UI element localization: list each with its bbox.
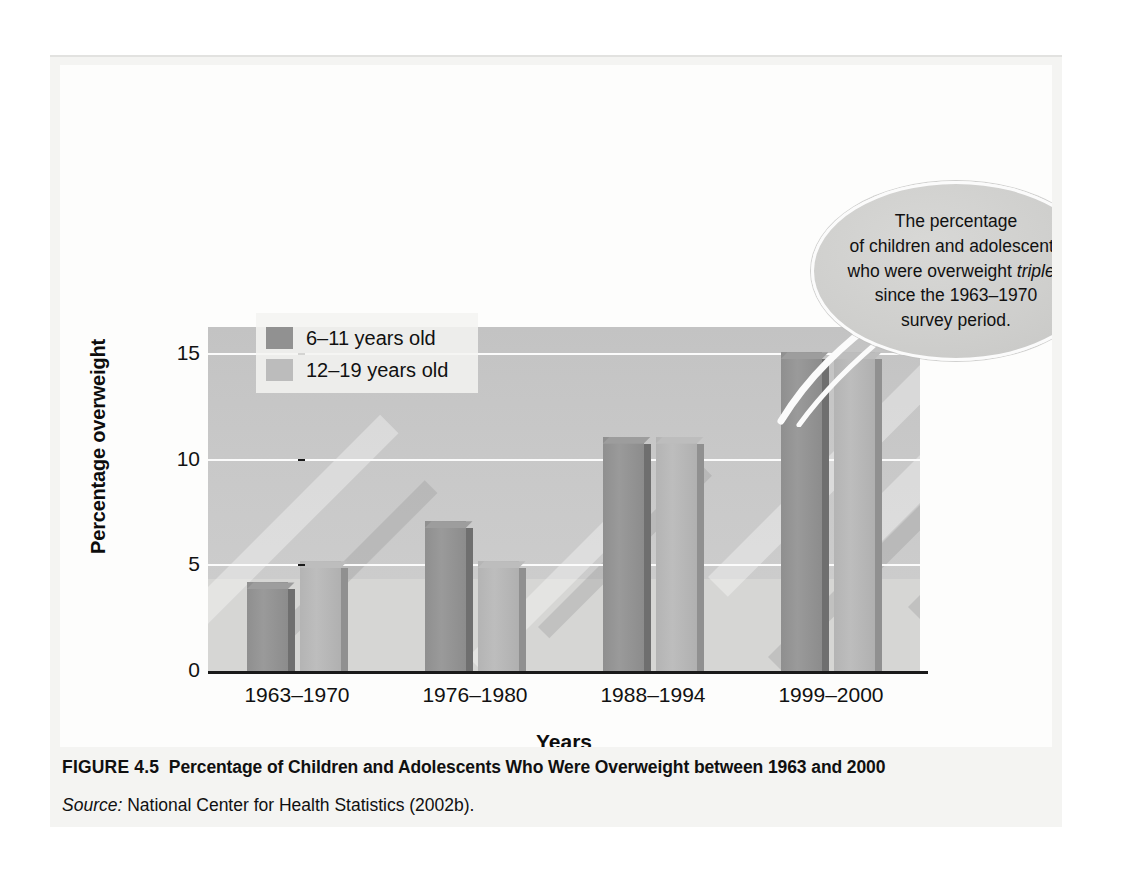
figure-source-line: Source: National Center for Health Stati… [62, 795, 1052, 816]
bar-top-face [425, 521, 473, 528]
bar-side-face [341, 568, 348, 671]
y-axis-tick-mark [298, 459, 305, 461]
callout-line-3-text: who were overweight [848, 261, 1017, 281]
legend-swatch-icon [266, 327, 293, 349]
bar [425, 521, 473, 671]
bar-side-face [875, 359, 882, 671]
bar [603, 437, 651, 671]
callout-line-5: survey period. [901, 308, 1011, 333]
y-axis-title: Percentage overweight [87, 317, 110, 577]
y-axis-tick-label: 5 [160, 552, 200, 576]
source-text: National Center for Health Statistics (2… [127, 795, 474, 815]
bar-side-face [288, 589, 295, 671]
chart-panel: 051015 1963–19701976–19801988–19941999–2… [60, 65, 1052, 747]
legend-item-1: 12–19 years old [266, 354, 468, 386]
bar-front-face [425, 521, 466, 671]
bar [656, 437, 704, 671]
bar-front-face [781, 352, 822, 671]
bar [300, 561, 348, 671]
legend-swatch-icon [266, 359, 293, 381]
bar-top-face [603, 437, 651, 444]
chart-legend: 6–11 years old 12–19 years old [256, 313, 478, 393]
y-axis-tick-label: 15 [160, 341, 200, 365]
bar-top-face [656, 437, 704, 444]
x-axis-tick-label: 1999–2000 [741, 683, 921, 707]
bar-front-face [478, 561, 519, 671]
bar-front-face [603, 437, 644, 671]
bar-front-face [300, 561, 341, 671]
callout-line-1: The percentage [895, 209, 1018, 234]
x-axis-tick-label: 1976–1980 [385, 683, 565, 707]
caption-spacer [159, 757, 169, 777]
figure-caption-text: Percentage of Children and Adolescents W… [169, 757, 886, 777]
callout-text: The percentage of children and adolescen… [811, 181, 1052, 361]
bar-side-face [644, 444, 651, 671]
callout-line-2: of children and adolescents [849, 234, 1052, 259]
legend-item-label: 6–11 years old [306, 327, 436, 350]
callout-bubble: The percentage of children and adolescen… [811, 181, 1052, 361]
legend-item-0: 6–11 years old [266, 322, 468, 354]
x-axis-tick-label: 1988–1994 [563, 683, 743, 707]
figure-number: FIGURE 4.5 [62, 757, 159, 777]
bar-top-face [478, 561, 526, 568]
callout-line-3: who were overweight tripled [848, 259, 1052, 284]
figure-container: 051015 1963–19701976–19801988–19941999–2… [50, 55, 1062, 827]
bar [834, 352, 882, 671]
x-axis-title: Years [208, 730, 920, 747]
y-axis-tick-label: 0 [160, 658, 200, 682]
source-label: Source: [62, 795, 122, 815]
callout-emphasis: tripled [1017, 261, 1052, 281]
figure-caption-block: FIGURE 4.5 Percentage of Children and Ad… [62, 757, 1052, 816]
x-axis-line [208, 671, 928, 674]
bar-front-face [247, 582, 288, 671]
y-axis-tick-mark [298, 564, 305, 566]
x-axis-tick-label: 1963–1970 [207, 683, 387, 707]
bar-top-face [247, 582, 295, 589]
bar-side-face [519, 568, 526, 671]
bar-top-face [300, 561, 348, 568]
y-axis-ticks: 051015 [156, 65, 200, 747]
bar-side-face [697, 444, 704, 671]
bar [247, 582, 295, 671]
bar [478, 561, 526, 671]
figure-caption-title: FIGURE 4.5 Percentage of Children and Ad… [62, 757, 1052, 778]
bar [781, 352, 829, 671]
legend-item-label: 12–19 years old [306, 359, 448, 382]
bar-side-face [822, 359, 829, 671]
bar-front-face [834, 352, 875, 671]
callout-line-4: since the 1963–1970 [875, 283, 1038, 308]
bar-front-face [656, 437, 697, 671]
bar-side-face [466, 528, 473, 671]
y-axis-tick-label: 10 [160, 447, 200, 471]
